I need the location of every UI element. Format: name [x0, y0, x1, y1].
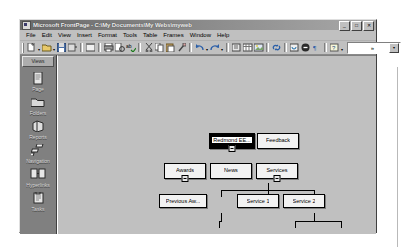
style-combo[interactable]: ▾ [347, 42, 401, 54]
sidebar-item-navigation[interactable]: Navigation [20, 143, 56, 164]
frontpage-window: Microsoft FrontPage - C:\My Documents\My… [19, 19, 377, 233]
nav-node-label: News [224, 167, 238, 173]
toolbar-grip[interactable] [22, 43, 24, 53]
nav-node-services[interactable]: Services [256, 163, 298, 179]
sidebar-item-page[interactable]: Page [20, 71, 56, 92]
nav-node-news[interactable]: News [210, 163, 252, 179]
cut-icon[interactable] [143, 42, 154, 53]
copy-icon[interactable] [154, 42, 165, 53]
toolbar-separator [324, 43, 327, 52]
redo-icon[interactable] [209, 42, 220, 53]
nav-node-service2[interactable]: Service 2 [283, 194, 325, 208]
navigation-icon [31, 143, 46, 157]
format-painter-icon[interactable] [176, 42, 187, 53]
menu-window[interactable]: Window [187, 30, 214, 40]
workspace: Views Page Folders Reports [20, 55, 376, 234]
menu-insert[interactable]: Insert [74, 30, 95, 40]
nav-node-label: Services [266, 167, 287, 173]
spelling-icon[interactable]: ab [125, 42, 136, 53]
show-all-icon[interactable]: ¶ [311, 42, 322, 53]
new-page-icon[interactable] [26, 42, 37, 53]
print-icon[interactable] [103, 42, 114, 53]
sidebar-item-reports[interactable]: Reports [20, 119, 56, 140]
menu-format[interactable]: Format [95, 30, 120, 40]
close-button[interactable]: ✕ [363, 21, 374, 31]
open-icon[interactable] [41, 42, 52, 53]
menu-help[interactable]: Help [214, 30, 232, 40]
connector [221, 213, 222, 221]
views-bar: Views Page Folders Reports [20, 55, 57, 234]
sidebar-item-tasks[interactable]: Tasks [20, 191, 56, 212]
connector [341, 221, 342, 228]
sidebar-label-reports: Reports [29, 134, 47, 140]
toolbar-separator [138, 43, 141, 52]
connector [219, 221, 220, 228]
sidebar-item-folders[interactable]: Folders [20, 95, 56, 116]
connector [295, 221, 341, 222]
sidebar-label-hyperlinks: Hyperlinks [26, 182, 49, 188]
refresh-icon[interactable] [289, 42, 300, 53]
page-icon [33, 71, 43, 85]
nav-node-label: Redmond EE... [212, 137, 251, 143]
stop-icon[interactable] [300, 42, 311, 53]
svg-text:ab: ab [126, 43, 132, 49]
menu-bar: File Edit View Insert Format Tools Table… [20, 30, 376, 41]
toolbar-overflow-button[interactable]: » [371, 45, 374, 51]
insert-picture-icon[interactable] [253, 42, 264, 53]
hyperlinks-icon [30, 167, 46, 181]
help-dropdown-icon[interactable]: ▾ [340, 42, 344, 53]
menu-view[interactable]: View [55, 30, 74, 40]
toolbar-separator [98, 43, 101, 52]
window-title: Microsoft FrontPage - C:\My Documents\My… [33, 20, 192, 30]
sidebar-label-tasks: Tasks [32, 206, 45, 212]
nav-node-label: Previous Aw... [166, 198, 200, 204]
menu-edit[interactable]: Edit [39, 30, 55, 40]
toolbar-separator [189, 43, 192, 52]
nav-node-prev-aw[interactable]: Previous Aw... [159, 194, 207, 208]
publish-web-icon[interactable] [67, 42, 78, 53]
collapse-toggle-icon[interactable] [274, 175, 281, 182]
sidebar-label-folders: Folders [30, 110, 47, 116]
nav-node-awards[interactable]: Awards [164, 163, 206, 179]
collapse-toggle-icon[interactable] [182, 175, 189, 182]
print-preview-icon[interactable] [114, 42, 125, 53]
tasks-icon [33, 191, 44, 205]
connector [295, 221, 296, 228]
hyperlink-icon[interactable] [271, 42, 282, 53]
menu-file[interactable]: File [23, 30, 39, 40]
title-bar[interactable]: Microsoft FrontPage - C:\My Documents\My… [20, 20, 376, 30]
nav-node-label: Service 1 [247, 198, 270, 204]
nav-node-home[interactable]: Redmond EE... [209, 133, 255, 149]
nav-node-feedback[interactable]: Feedback [257, 133, 299, 149]
reports-icon [31, 119, 45, 133]
redo-dropdown-icon[interactable]: ▾ [220, 42, 224, 53]
save-icon[interactable] [56, 42, 67, 53]
chevron-down-icon[interactable]: ▾ [389, 43, 399, 53]
navigation-view[interactable]: Redmond EE...FeedbackAwardsNewsServicesP… [57, 55, 376, 234]
connector [314, 213, 315, 221]
undo-icon[interactable] [194, 42, 205, 53]
help-icon[interactable]: ? [329, 42, 340, 53]
insert-table-icon[interactable] [242, 42, 253, 53]
frontpage-icon [22, 21, 31, 30]
minimize-button[interactable]: _ [339, 21, 350, 31]
menu-frames[interactable]: Frames [160, 30, 186, 40]
sidebar-label-page: Page [32, 86, 44, 92]
sidebar-label-navigation: Navigation [26, 158, 50, 164]
menu-tools[interactable]: Tools [120, 30, 140, 40]
standard-toolbar: ▾ ▾ ab [20, 41, 376, 55]
folder-icon [31, 95, 45, 109]
collapse-toggle-icon[interactable] [229, 145, 236, 152]
paste-icon[interactable] [165, 42, 176, 53]
connector [221, 190, 222, 197]
navigation-canvas[interactable]: Redmond EE...FeedbackAwardsNewsServicesP… [58, 56, 376, 234]
toolbar-separator [226, 43, 229, 52]
insert-component-icon[interactable] [231, 42, 242, 53]
page-properties-icon[interactable] [85, 42, 96, 53]
menu-table[interactable]: Table [140, 30, 160, 40]
nav-node-label: Feedback [266, 137, 290, 143]
sidebar-item-hyperlinks[interactable]: Hyperlinks [20, 167, 56, 188]
window-controls: _ □ ✕ [339, 21, 374, 31]
nav-node-service1[interactable]: Service 1 [237, 194, 279, 208]
maximize-button[interactable]: □ [351, 21, 362, 31]
